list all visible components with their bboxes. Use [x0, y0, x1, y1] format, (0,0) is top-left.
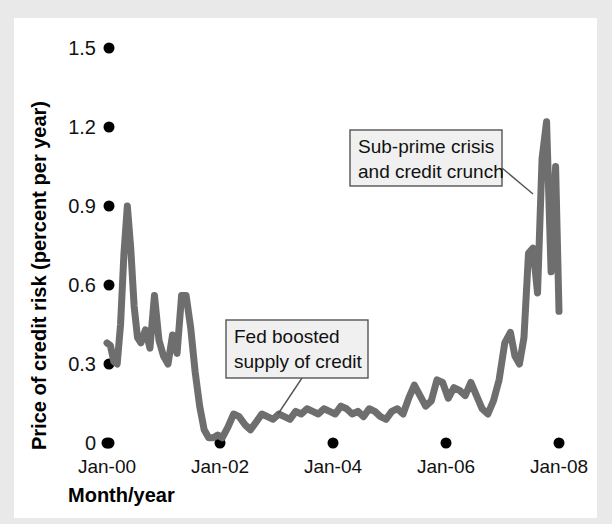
y-tick-label: 0.3	[68, 353, 96, 375]
x-tick-label: Jan-06	[417, 456, 475, 477]
annotation-leader-line	[502, 168, 533, 194]
x-axis-tick-markers	[102, 438, 565, 449]
annotation-text-subprime-crisis: and credit crunch	[358, 161, 504, 182]
x-tick-label: Jan-00	[78, 456, 136, 477]
annotation-text-subprime-crisis: Sub-prime crisis	[358, 136, 494, 157]
y-tick-label: 0	[85, 432, 96, 454]
x-tick-dot	[554, 438, 565, 449]
x-tick-dot	[328, 438, 339, 449]
y-tick-label: 0.6	[68, 274, 96, 296]
y-axis-tick-markers	[104, 43, 115, 449]
y-tick-dot	[104, 201, 115, 212]
x-tick-dot	[102, 438, 113, 449]
x-tick-label: Jan-04	[304, 456, 363, 477]
x-tick-label: Jan-02	[191, 456, 249, 477]
y-tick-label: 1.2	[68, 116, 96, 138]
x-tick-label: Jan-08	[530, 456, 588, 477]
y-tick-dot	[104, 122, 115, 133]
x-axis-title: Month/year	[68, 484, 175, 506]
annotation-text-fed-boosted: supply of credit	[234, 351, 363, 372]
y-axis-title: Price of credit risk (percent per year)	[28, 101, 50, 450]
x-tick-dot	[441, 438, 452, 449]
y-tick-label: 1.5	[68, 37, 96, 59]
y-axis-tick-labels: 1.51.20.90.60.30	[68, 37, 96, 454]
annotation-leader-line	[278, 378, 302, 414]
annotation-text-fed-boosted: Fed boosted	[234, 326, 340, 347]
chart-figure: 1.51.20.90.60.30 Jan-00Jan-02Jan-04Jan-0…	[0, 0, 612, 524]
chart-annotations: Fed boostedsupply of creditSub-prime cri…	[226, 130, 533, 414]
credit-risk-line-chart: 1.51.20.90.60.30 Jan-00Jan-02Jan-04Jan-0…	[0, 0, 612, 524]
x-axis-tick-labels: Jan-00Jan-02Jan-04Jan-06Jan-08	[78, 456, 588, 477]
y-tick-label: 0.9	[68, 195, 96, 217]
y-tick-dot	[104, 280, 115, 291]
y-tick-dot	[104, 43, 115, 54]
